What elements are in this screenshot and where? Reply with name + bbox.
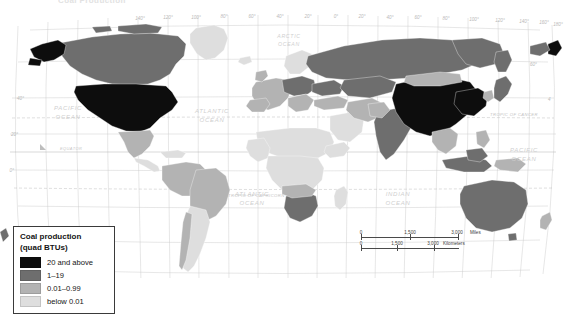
svg-text:140°: 140° [486,286,496,291]
region-central-america [134,158,160,172]
svg-text:40°: 40° [226,291,233,296]
latitude-labels-right: 60° 4 [530,62,551,102]
longitude-labels-top: 140° 120° 100° 80° 60° 40° 20° 0° 20° 40… [135,14,563,27]
svg-text:INDIAN: INDIAN [386,191,411,197]
region-alaska [30,40,66,62]
ocean-label-pacific-west: PACIFIC OCEAN [54,105,82,120]
svg-text:80°: 80° [401,290,408,295]
region-united-states [74,84,178,132]
svg-text:160°: 160° [539,20,549,25]
svg-text:0°: 0° [334,14,339,19]
svg-text:60°: 60° [196,291,203,296]
svg-text:120°: 120° [163,15,173,20]
map-legend: Coal production (quad BTUs) 20 and above… [13,226,115,314]
svg-text:ARCTIC: ARCTIC [276,33,301,39]
svg-text:PACIFIC: PACIFIC [54,105,82,111]
legend-label-20-and-above: 20 and above [47,258,93,267]
map-scale-bar: 0 1,500 3,000 Miles 0 1,500 3,000 Kilome… [357,231,469,253]
legend-title: Coal production (quad BTUs) [20,232,108,253]
svg-text:0°: 0° [10,168,15,173]
ocean-label-arctic: ARCTIC OCEAN [276,33,301,47]
scale-km-tickmark-2 [434,245,435,251]
legend-swatch-1-to-19 [20,270,41,281]
svg-text:OCEAN: OCEAN [240,200,265,206]
svg-text:20°: 20° [254,291,262,296]
scale-km-tick-2: 3,000 [427,241,439,246]
scale-bar-kilometers: 0 1,500 3,000 Kilometers [357,242,469,253]
svg-text:OCEAN: OCEAN [512,156,537,162]
region-canada [60,33,186,85]
region-caribbean [160,150,186,158]
legend-swatch-20-and-above [20,257,41,268]
legend-title-line2: (quad BTUs) [20,243,108,254]
legend-swatch-below-001 [20,296,41,307]
scale-km-tickmark-0 [361,245,362,251]
legend-label-below-001: below 0.01 [47,297,84,306]
svg-text:60°: 60° [530,62,537,67]
scale-miles-tickmark-0 [361,234,362,240]
tropic-of-cancer-line [12,117,554,118]
svg-text:60°: 60° [249,14,256,19]
svg-text:OCEAN: OCEAN [200,117,225,123]
tropic-of-capricorn-label: TROPIC OF CAPRICORN [228,193,285,198]
svg-text:40°: 40° [277,14,284,19]
svg-text:20°: 20° [358,14,366,19]
scale-miles-unit: Miles [470,230,481,235]
region-russia-kamchatka [494,50,512,72]
region-philippines [476,130,490,148]
region-germany-poland [282,76,316,96]
svg-text:4: 4 [548,97,551,102]
scale-miles-tick-2: 3,000 [451,230,463,235]
svg-text:140°: 140° [135,16,145,21]
region-russia-wrap [530,42,550,56]
region-ukraine [312,80,344,96]
svg-text:80°: 80° [167,291,174,296]
svg-text:40°: 40° [343,291,350,296]
region-australia [460,180,528,232]
svg-text:100°: 100° [136,290,146,295]
svg-text:120°: 120° [457,288,467,293]
svg-text:180°: 180° [553,22,563,27]
svg-text:PACIFIC: PACIFIC [510,147,538,153]
svg-text:ATLANTIC: ATLANTIC [194,108,229,114]
scale-km-tickmark-1 [397,245,398,251]
equator-pointer-icon [40,144,46,150]
legend-label-001-to-099: 0.01–0.99 [47,284,81,293]
region-iberia [246,98,270,112]
longitude-labels-bottom: 160° 140° 120° 100° 80° 60° 40° 20° 0° 2… [47,280,548,296]
svg-text:80°: 80° [443,16,450,21]
region-canada-island-2 [92,26,112,33]
svg-text:80°: 80° [221,14,228,19]
svg-text:100°: 100° [428,289,438,294]
svg-text:120°: 120° [495,18,505,23]
region-iceland [238,56,252,65]
legend-label-1-to-19: 1–19 [47,271,64,280]
svg-text:OCEAN: OCEAN [56,114,81,120]
svg-text:20°: 20° [10,132,18,137]
tropic-of-cancer-label: TROPIC OF CANCER [490,112,538,117]
svg-text:20°: 20° [304,14,312,19]
region-greenland [190,25,228,60]
legend-item-20-and-above: 20 and above [20,257,108,268]
svg-text:OCEAN: OCEAN [278,41,300,47]
scale-miles-tickmark-2 [458,234,459,240]
svg-text:OCEAN: OCEAN [386,200,411,206]
svg-text:0°: 0° [286,291,291,296]
svg-text:180°: 180° [538,280,548,285]
legend-item-below-001: below 0.01 [20,296,108,307]
svg-text:140°: 140° [519,19,529,24]
legend-swatch-001-to-099 [20,283,41,294]
ocean-label-pacific-east: PACIFIC OCEAN [510,147,538,162]
legend-item-1-to-19: 1–19 [20,270,108,281]
svg-text:100°: 100° [191,15,201,20]
latitude-labels-left: 40° 20° 0° [10,96,25,173]
region-turkey [314,96,348,110]
svg-text:20°: 20° [313,291,321,296]
svg-text:40°: 40° [387,15,394,20]
svg-text:100°: 100° [469,17,479,22]
scale-km-line [361,248,459,249]
ocean-label-atlantic-north: ATLANTIC OCEAN [194,108,229,123]
equator-label: EQUATOR [60,146,82,151]
svg-text:60°: 60° [372,290,379,295]
